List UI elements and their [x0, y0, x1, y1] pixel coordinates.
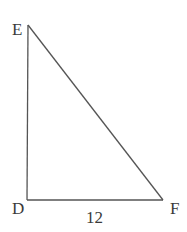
triangle-diagram: E D F 12 — [0, 0, 187, 232]
vertex-label-f: F — [170, 199, 179, 218]
vertex-label-e: E — [12, 20, 22, 39]
edge-ef — [28, 25, 163, 200]
side-label-df: 12 — [86, 208, 103, 227]
triangle-edges — [27, 25, 163, 200]
edge-de — [27, 25, 28, 200]
vertex-label-d: D — [12, 199, 24, 218]
